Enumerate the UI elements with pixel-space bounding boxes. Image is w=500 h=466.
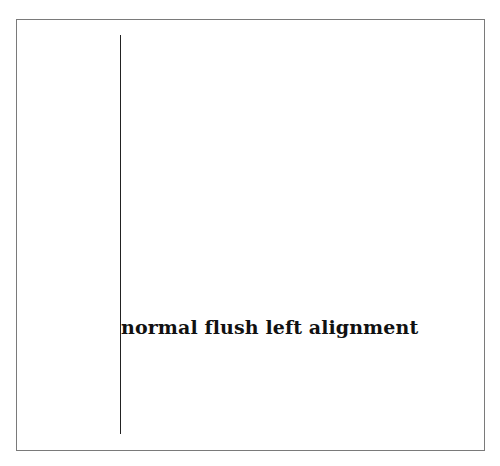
flush-left-sample-text: normal flush left alignment bbox=[121, 314, 418, 340]
figure-frame bbox=[16, 19, 485, 451]
alignment-guide-line bbox=[120, 35, 121, 434]
